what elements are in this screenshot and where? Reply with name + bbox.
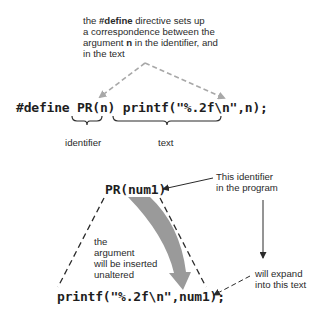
expand-callout-line1: will expand — [255, 268, 306, 279]
macro-call: PR(num1) — [105, 182, 166, 197]
argument-callout: the argument will be inserted unaltered — [94, 236, 157, 280]
macro-expansion: printf("%.2f\n",num1); — [57, 289, 225, 304]
define-note-line3: argument n in the identifier, and — [83, 37, 218, 48]
define-note-line1: the #define directive sets up — [83, 15, 218, 26]
expand-callout-line2: into this text — [255, 279, 306, 290]
text-label: text — [158, 137, 173, 148]
expand-callout: will expand into this text — [255, 268, 306, 290]
identifier-label: identifier — [65, 137, 101, 148]
define-keyword: #define — [16, 100, 69, 115]
correspondence-arrows — [100, 63, 224, 98]
text-brace — [113, 116, 221, 125]
argument-callout-line4: unaltered — [94, 269, 157, 280]
argument-callout-line3: will be inserted — [94, 258, 157, 269]
identifier-brace — [72, 116, 102, 125]
argument-callout-line2: argument — [94, 247, 157, 258]
identifier-callout-line2: in the program — [216, 182, 278, 193]
define-note-line4: in the text — [83, 48, 218, 59]
define-statement: #define PR(n) printf("%.2f\n",n); — [16, 100, 268, 115]
macro-identifier: PR(n) — [77, 100, 115, 115]
identifier-pointer-arrow — [163, 178, 213, 189]
identifier-callout: This identifier in the program — [216, 171, 278, 193]
define-note: the #define directive sets up a correspo… — [83, 15, 218, 59]
identifier-callout-line1: This identifier — [216, 171, 278, 182]
define-note-line2: a correspondence between the — [83, 26, 218, 37]
argument-callout-line1: the — [94, 236, 157, 247]
macro-diagram: the #define directive sets up a correspo… — [0, 0, 326, 318]
macro-text: printf("%.2f\n",n); — [123, 100, 268, 115]
